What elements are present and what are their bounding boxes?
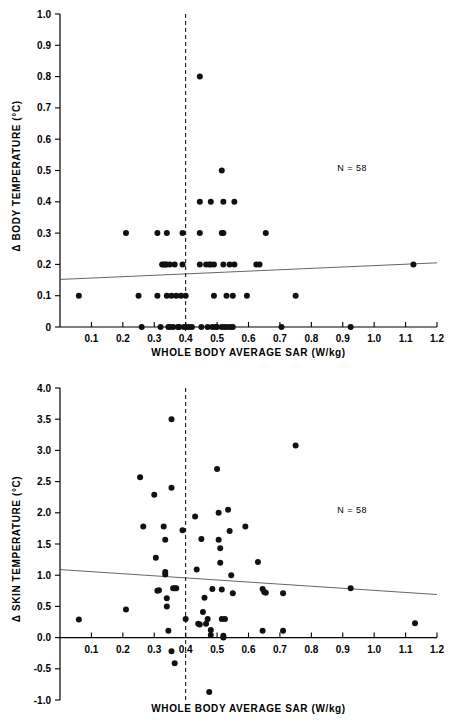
data-point bbox=[156, 587, 162, 593]
data-point bbox=[224, 293, 230, 299]
data-point bbox=[158, 324, 164, 330]
data-point bbox=[217, 545, 223, 551]
y-tick-label: 1.0 bbox=[37, 570, 51, 581]
data-point bbox=[197, 199, 203, 205]
skin-temperature-plot: -1.0-0.50.00.51.01.52.02.53.03.54.00.10.… bbox=[0, 364, 454, 727]
data-point bbox=[180, 261, 186, 267]
data-point bbox=[278, 324, 284, 330]
y-tick-label: 1.5 bbox=[37, 539, 51, 550]
data-point bbox=[154, 230, 160, 236]
data-point bbox=[231, 261, 237, 267]
data-point bbox=[173, 585, 179, 591]
data-point bbox=[183, 616, 189, 622]
data-point bbox=[219, 168, 225, 174]
y-tick-label: 2.0 bbox=[37, 507, 51, 518]
x-tick-label: 0.5 bbox=[210, 333, 224, 344]
x-tick-label: 0.4 bbox=[179, 333, 193, 344]
data-point bbox=[136, 293, 142, 299]
x-tick-label: 0.7 bbox=[273, 644, 287, 655]
y-tick-label: 0.9 bbox=[37, 40, 51, 51]
data-point bbox=[293, 442, 299, 448]
y-tick-label: 0.1 bbox=[37, 290, 51, 301]
y-tick-label: -1.0 bbox=[34, 695, 52, 706]
data-point bbox=[293, 293, 299, 299]
x-tick-label: 0.6 bbox=[242, 333, 256, 344]
x-tick-label: 1.0 bbox=[367, 333, 381, 344]
y-tick-label: 0.3 bbox=[37, 228, 51, 239]
data-point bbox=[348, 585, 354, 591]
data-point bbox=[165, 628, 171, 634]
data-point bbox=[154, 293, 160, 299]
data-point bbox=[197, 261, 203, 267]
data-point bbox=[137, 474, 143, 480]
data-point bbox=[209, 586, 215, 592]
data-point bbox=[216, 510, 222, 516]
data-point bbox=[230, 590, 236, 596]
data-point bbox=[76, 293, 82, 299]
data-point bbox=[242, 524, 248, 530]
data-point bbox=[198, 324, 204, 330]
y-tick-label: 0.8 bbox=[37, 71, 51, 82]
data-point bbox=[256, 261, 262, 267]
data-point bbox=[169, 648, 175, 654]
x-tick-label: 0.2 bbox=[116, 333, 130, 344]
data-point bbox=[211, 261, 217, 267]
data-point bbox=[164, 603, 170, 609]
data-point bbox=[139, 324, 145, 330]
data-point bbox=[180, 527, 186, 533]
data-point bbox=[219, 587, 225, 593]
data-point bbox=[230, 293, 236, 299]
data-point bbox=[410, 261, 416, 267]
data-point bbox=[151, 492, 157, 498]
data-point bbox=[180, 230, 186, 236]
data-point bbox=[412, 620, 418, 626]
data-point bbox=[280, 590, 286, 596]
y-tick-label: 3.0 bbox=[37, 445, 51, 456]
data-point bbox=[169, 485, 175, 491]
data-point bbox=[183, 293, 189, 299]
x-tick-label: 0.7 bbox=[273, 333, 287, 344]
data-point bbox=[222, 616, 228, 622]
data-point bbox=[153, 555, 159, 561]
data-point bbox=[230, 324, 236, 330]
data-point bbox=[220, 199, 226, 205]
data-point bbox=[198, 536, 204, 542]
data-point bbox=[216, 537, 222, 543]
data-point bbox=[208, 199, 214, 205]
x-tick-label: 0.3 bbox=[147, 644, 161, 655]
data-point bbox=[220, 261, 226, 267]
data-point bbox=[348, 324, 354, 330]
sample-size-annotation: N = 58 bbox=[337, 505, 367, 515]
y-tick-label: 4.0 bbox=[37, 383, 51, 394]
data-point bbox=[200, 609, 206, 615]
x-tick-label: 1.2 bbox=[430, 333, 444, 344]
data-point bbox=[164, 595, 170, 601]
data-point bbox=[164, 230, 170, 236]
y-tick-label: 0.5 bbox=[37, 601, 51, 612]
y-tick-label: 0 bbox=[45, 322, 51, 333]
sample-size-annotation: N = 58 bbox=[337, 163, 367, 173]
y-tick-label: 2.5 bbox=[37, 476, 51, 487]
x-tick-label: 0.2 bbox=[116, 644, 130, 655]
data-point bbox=[206, 689, 212, 695]
data-point bbox=[280, 628, 286, 634]
data-point bbox=[220, 633, 226, 639]
data-point bbox=[123, 607, 129, 613]
data-point bbox=[197, 621, 203, 627]
data-point bbox=[208, 627, 214, 633]
y-tick-label: -0.5 bbox=[34, 663, 52, 674]
x-tick-label: 0.1 bbox=[84, 644, 98, 655]
data-point bbox=[194, 567, 200, 573]
data-point bbox=[197, 230, 203, 236]
y-tick-label: 0.2 bbox=[37, 259, 51, 270]
x-axis-title: WHOLE BODY AVERAGE SAR (W/kg) bbox=[151, 703, 345, 714]
data-point bbox=[214, 466, 220, 472]
data-point bbox=[217, 560, 223, 566]
data-point bbox=[227, 528, 233, 534]
x-tick-label: 1.1 bbox=[399, 644, 413, 655]
y-axis-title-group: Δ SKIN TEMPERATURE (°C) bbox=[11, 476, 22, 622]
y-tick-label: 1.0 bbox=[37, 9, 51, 20]
regression-line bbox=[60, 263, 437, 280]
y-tick-label: 3.5 bbox=[37, 414, 51, 425]
x-tick-label: 0.9 bbox=[336, 644, 350, 655]
